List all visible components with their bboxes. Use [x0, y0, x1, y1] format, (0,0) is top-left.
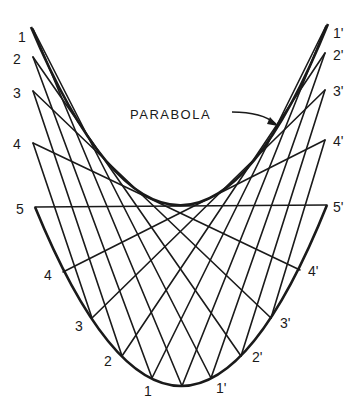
- label-right-2: 2': [333, 47, 343, 63]
- label-left-3: 3: [13, 85, 21, 101]
- label-left-4: 4: [13, 136, 21, 152]
- label-lower-left-4: 4: [44, 267, 52, 283]
- label-right-4: 4': [333, 133, 343, 149]
- label-lower-right-2: 2': [252, 349, 262, 365]
- parabola-construction-diagram: 1 2 3 4 5 1' 2' 3' 4' 5' 4 3 2 1 4' 3' 2…: [0, 0, 363, 401]
- label-right-1: 1': [333, 25, 343, 41]
- label-lower-right-4: 4': [308, 263, 318, 279]
- left-to-lower-left-lines: [33, 29, 182, 386]
- label-lower-left-3: 3: [75, 318, 83, 334]
- label-lower-right-1: 1': [216, 380, 226, 396]
- label-lower-left-2: 2: [104, 353, 112, 369]
- label-lower-right-3: 3': [280, 315, 290, 331]
- line-5-5prime: [35, 205, 327, 207]
- label-right-3: 3': [333, 83, 343, 99]
- label-left-1: 1: [18, 29, 26, 45]
- label-lower-left-1: 1: [144, 383, 152, 399]
- label-right-5: 5': [333, 199, 343, 215]
- label-left-5: 5: [16, 201, 24, 217]
- parabola-label: PARABOLA: [130, 107, 211, 122]
- label-left-2: 2: [13, 51, 21, 67]
